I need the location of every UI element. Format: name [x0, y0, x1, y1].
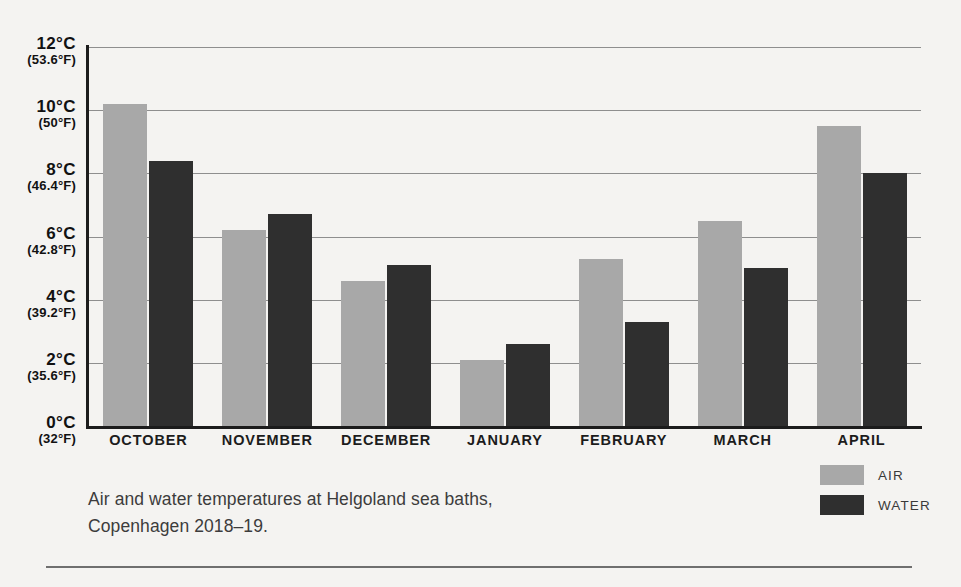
bar-air-january[interactable] — [460, 360, 504, 426]
y-tick-2: 2°C(35.6°F) — [0, 351, 86, 384]
y-tick-10: 10°C(50°F) — [0, 98, 86, 131]
bar-air-october[interactable] — [103, 104, 147, 426]
x-tick-february: FEBRUARY — [559, 432, 689, 448]
legend-item-water[interactable]: WATER — [820, 493, 931, 517]
bar-group-december — [341, 47, 431, 426]
legend-label-water: WATER — [878, 498, 931, 513]
bar-water-november[interactable] — [268, 214, 312, 426]
legend-swatch-water — [820, 495, 864, 515]
x-tick-december: DECEMBER — [321, 432, 451, 448]
bar-air-december[interactable] — [341, 281, 385, 426]
x-axis-labels: OCTOBERNOVEMBERDECEMBERJANUARYFEBRUARYMA… — [89, 432, 921, 456]
y-tick-celsius: 8°C — [0, 161, 86, 178]
y-tick-celsius: 6°C — [0, 225, 86, 242]
chart-caption: Air and water temperatures at Helgoland … — [88, 486, 648, 540]
x-axis-line — [86, 426, 922, 429]
y-tick-0: 0°C(32°F) — [0, 414, 86, 447]
x-tick-october: OCTOBER — [83, 432, 213, 448]
y-tick-celsius: 10°C — [0, 98, 86, 115]
legend-swatch-air — [820, 465, 864, 485]
bar-water-january[interactable] — [506, 344, 550, 426]
bar-group-january — [460, 47, 550, 426]
bar-air-april[interactable] — [817, 126, 861, 426]
bar-water-march[interactable] — [744, 268, 788, 426]
bar-group-april — [817, 47, 907, 426]
bar-groups — [89, 47, 921, 426]
y-tick-fahrenheit: (32°F) — [0, 431, 86, 447]
bar-air-november[interactable] — [222, 230, 266, 426]
x-tick-march: MARCH — [678, 432, 808, 448]
footer-divider — [46, 566, 912, 568]
y-tick-fahrenheit: (53.6°F) — [0, 52, 86, 68]
y-tick-celsius: 2°C — [0, 351, 86, 368]
caption-line-1: Air and water temperatures at Helgoland … — [88, 486, 648, 513]
bar-water-february[interactable] — [625, 322, 669, 426]
x-tick-november: NOVEMBER — [202, 432, 332, 448]
bar-water-october[interactable] — [149, 161, 193, 426]
y-tick-fahrenheit: (39.2°F) — [0, 305, 86, 321]
y-tick-fahrenheit: (42.8°F) — [0, 242, 86, 258]
bar-water-december[interactable] — [387, 265, 431, 426]
bar-group-october — [103, 47, 193, 426]
bar-water-april[interactable] — [863, 173, 907, 426]
x-tick-april: APRIL — [797, 432, 927, 448]
y-tick-fahrenheit: (50°F) — [0, 115, 86, 131]
y-tick-8: 8°C(46.4°F) — [0, 161, 86, 194]
bar-group-november — [222, 47, 312, 426]
y-tick-celsius: 12°C — [0, 35, 86, 52]
bar-air-march[interactable] — [698, 221, 742, 426]
bar-group-february — [579, 47, 669, 426]
y-tick-6: 6°C(42.8°F) — [0, 225, 86, 258]
chart-legend: AIRWATER — [820, 463, 931, 523]
y-tick-fahrenheit: (35.6°F) — [0, 368, 86, 384]
legend-label-air: AIR — [878, 468, 904, 483]
y-tick-12: 12°C(53.6°F) — [0, 35, 86, 68]
y-tick-celsius: 0°C — [0, 414, 86, 431]
x-tick-january: JANUARY — [440, 432, 570, 448]
bar-group-march — [698, 47, 788, 426]
legend-item-air[interactable]: AIR — [820, 463, 931, 487]
y-tick-4: 4°C(39.2°F) — [0, 288, 86, 321]
y-tick-fahrenheit: (46.4°F) — [0, 178, 86, 194]
y-tick-celsius: 4°C — [0, 288, 86, 305]
bar-air-february[interactable] — [579, 259, 623, 426]
y-axis-labels: 12°C(53.6°F)10°C(50°F)8°C(46.4°F)6°C(42.… — [0, 0, 86, 587]
caption-line-2: Copenhagen 2018–19. — [88, 513, 648, 540]
